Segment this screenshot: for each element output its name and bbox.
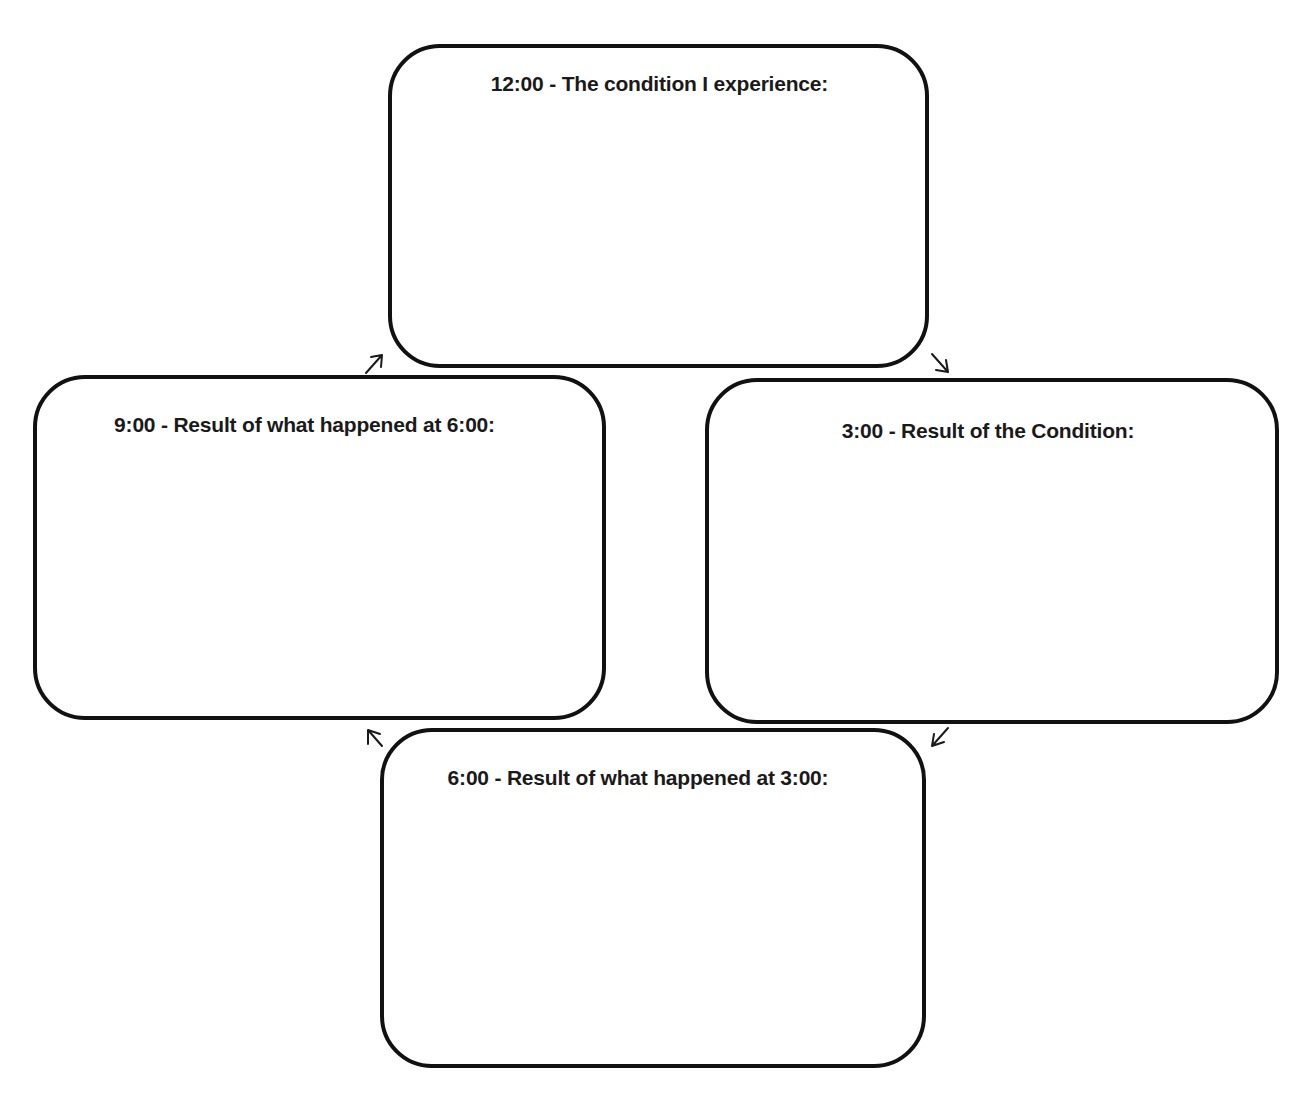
box-6-result-of-3: 6:00 - Result of what happened at 3:00: — [380, 728, 926, 1068]
box-12-condition: 12:00 - The condition I experience: — [388, 44, 929, 368]
box-9-result-of-6: 9:00 - Result of what happened at 6:00: — [33, 375, 606, 720]
box-9-answer-area[interactable] — [67, 459, 572, 686]
box-12-title: 12:00 - The condition I experience: — [392, 72, 925, 96]
box-6-title: 6:00 - Result of what happened at 3:00: — [384, 766, 922, 790]
box-6-answer-area[interactable] — [414, 812, 892, 1034]
box-12-answer-area[interactable] — [422, 118, 895, 334]
box-9-title: 9:00 - Result of what happened at 6:00: — [37, 413, 602, 437]
box-3-answer-area[interactable] — [739, 462, 1245, 690]
arrow-down-right-icon — [926, 348, 956, 378]
box-3-title: 3:00 - Result of the Condition: — [709, 419, 1275, 443]
arrow-up-left-icon — [360, 722, 390, 752]
arrow-down-left-icon — [924, 724, 954, 754]
arrow-up-right-icon — [360, 347, 390, 377]
box-3-result-of-condition: 3:00 - Result of the Condition: — [705, 378, 1279, 724]
